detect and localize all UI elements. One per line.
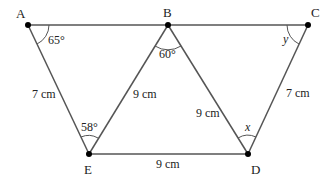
side-label-bd: 9 cm bbox=[196, 106, 220, 120]
point-d bbox=[245, 151, 251, 157]
angle-label-e: 58° bbox=[81, 120, 98, 134]
side-label-be: 9 cm bbox=[133, 87, 157, 101]
point-c bbox=[305, 22, 311, 28]
angle-label-c: y bbox=[282, 32, 289, 46]
angle-label-b: 60° bbox=[159, 47, 176, 61]
side-label-ae: 7 cm bbox=[32, 87, 56, 101]
point-b bbox=[165, 22, 171, 28]
point-e bbox=[86, 151, 92, 157]
angle-arc-d bbox=[238, 135, 256, 138]
line-bd bbox=[168, 25, 248, 154]
angle-arc-e bbox=[81, 135, 98, 138]
label-e: E bbox=[84, 162, 92, 177]
label-b: B bbox=[163, 5, 172, 20]
label-a: A bbox=[16, 6, 26, 21]
angle-arc-c bbox=[287, 25, 299, 44]
angle-label-d: x bbox=[244, 120, 251, 134]
side-label-ed: 9 cm bbox=[156, 157, 180, 171]
point-a bbox=[25, 22, 31, 28]
angle-label-a: 65° bbox=[48, 33, 65, 47]
side-label-cd: 7 cm bbox=[286, 86, 310, 100]
label-d: D bbox=[251, 162, 260, 177]
geometry-diagram: A B C E D 65° 60° y 58° x 7 cm 9 cm 9 cm… bbox=[0, 0, 329, 181]
label-c: C bbox=[311, 5, 320, 20]
